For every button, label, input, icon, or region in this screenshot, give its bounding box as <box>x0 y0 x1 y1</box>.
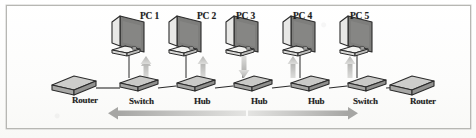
device-icon-router-left <box>52 76 96 95</box>
device-label-hub-2: Hub <box>251 96 267 106</box>
vertical-arrow-pc-1 <box>141 56 152 78</box>
device-label-switch-left: Switch <box>129 96 154 106</box>
workstation-label-pc-4: PC 4 <box>293 11 312 21</box>
workstation-label-pc-3: PC 3 <box>236 11 255 21</box>
workstation-label-pc-5: PC 5 <box>350 11 369 21</box>
left-flow-arrow <box>108 107 246 120</box>
vertical-arrow-pc-5 <box>345 56 356 78</box>
vertical-arrow-pc-4 <box>288 56 299 78</box>
workstation-icon-pc-2 <box>169 16 201 56</box>
workstation-label-pc-1: PC 1 <box>140 11 159 21</box>
vertical-arrow-pc-2 <box>198 56 209 78</box>
device-label-hub-1: Hub <box>194 96 210 106</box>
device-icon-hub-2 <box>234 76 272 91</box>
device-label-hub-3: Hub <box>308 96 324 106</box>
vertical-arrow-pc-3 <box>239 56 250 78</box>
device-label-router-left: Router <box>72 95 98 105</box>
device-icon-switch-right <box>348 76 386 91</box>
device-icon-router-right <box>390 76 434 95</box>
device-icon-hub-1 <box>177 76 215 91</box>
workstation-icon-pc-4 <box>283 16 315 56</box>
network-topology-figure: PC 1 PC 2 PC 3 PC 4 PC 5 Router Switch H… <box>0 0 476 138</box>
right-flow-arrow <box>248 107 358 120</box>
device-label-switch-right: Switch <box>353 96 378 106</box>
device-icon-switch-left <box>120 76 158 91</box>
device-label-router-right: Router <box>410 96 436 106</box>
workstation-icon-pc-5 <box>340 16 372 56</box>
workstation-icon-pc-3 <box>226 16 258 56</box>
device-icon-hub-3 <box>291 76 329 91</box>
workstation-label-pc-2: PC 2 <box>197 11 216 21</box>
workstation-icon-pc-1 <box>112 16 144 56</box>
